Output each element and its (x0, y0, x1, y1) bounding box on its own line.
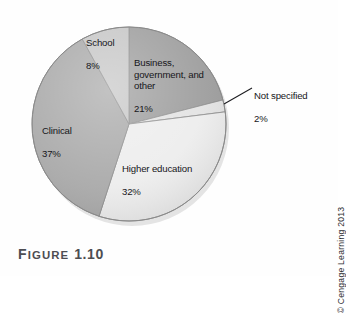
figure-caption-word: IGURE (28, 249, 70, 261)
pie-chart-svg (0, 0, 338, 240)
pie-chart: School 8% Business, government, and othe… (0, 0, 338, 240)
figure-caption-prefix: F (18, 246, 28, 262)
figure-caption-number: 1.10 (74, 246, 104, 262)
figure-caption: FIGURE 1.10 (18, 246, 104, 262)
pie-shading-overlay (32, 27, 226, 221)
copyright-notice: © Cengage Learning 2013 (336, 207, 346, 313)
not-specified-leader-line (224, 88, 252, 104)
